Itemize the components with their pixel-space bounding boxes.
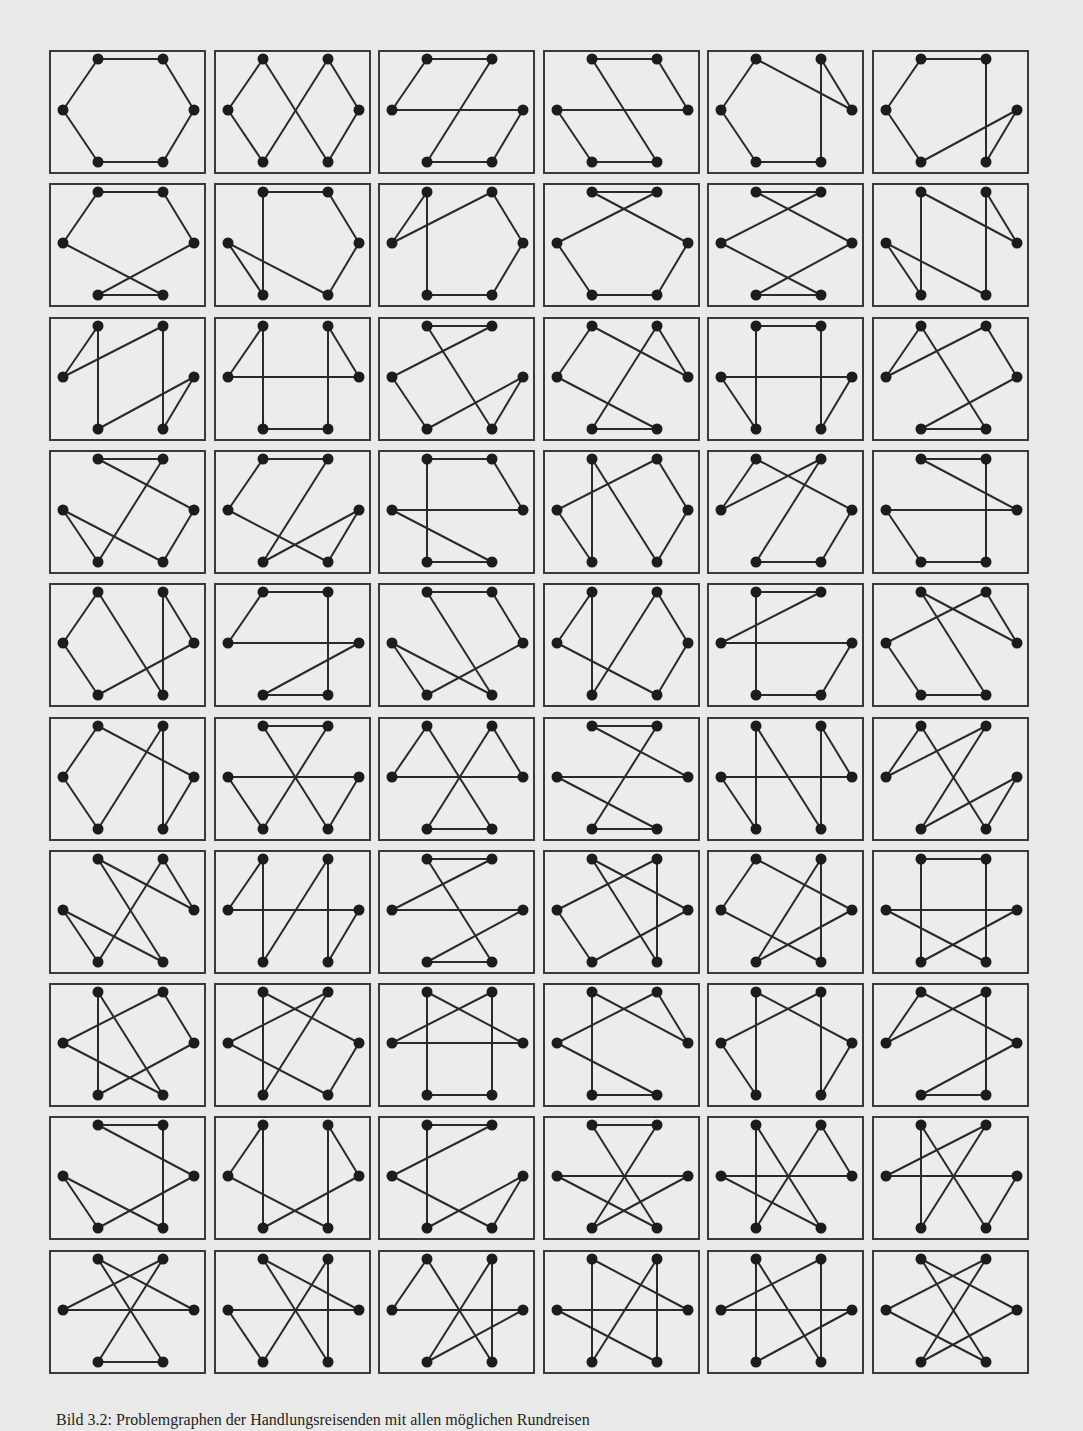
- city-node-bl: [751, 557, 762, 568]
- city-node-tr: [158, 587, 169, 598]
- city-node-tr: [487, 187, 498, 198]
- city-node-r: [189, 1305, 200, 1316]
- city-node-bl: [422, 157, 433, 168]
- tour-panel: [378, 450, 535, 574]
- city-node-bl: [587, 957, 598, 968]
- city-node-tl: [916, 54, 927, 65]
- tour-panel: [872, 1250, 1029, 1374]
- tour-graph: [49, 50, 206, 174]
- tour-panel: [543, 850, 700, 974]
- city-node-br: [981, 557, 992, 568]
- city-node-br: [158, 557, 169, 568]
- city-node-br: [323, 557, 334, 568]
- city-node-br: [816, 557, 827, 568]
- city-node-l: [881, 1305, 892, 1316]
- panel-frame: [544, 51, 699, 173]
- tour-panel: [707, 183, 864, 307]
- city-node-bl: [916, 957, 927, 968]
- tour-panel: [214, 50, 371, 174]
- city-node-br: [487, 424, 498, 435]
- city-node-r: [354, 905, 365, 916]
- city-node-l: [387, 105, 398, 116]
- city-node-bl: [258, 1223, 269, 1234]
- tour-graph: [543, 183, 700, 307]
- city-node-bl: [751, 690, 762, 701]
- city-node-r: [518, 238, 529, 249]
- city-node-r: [847, 1305, 858, 1316]
- tour-graph: [49, 1250, 206, 1374]
- city-node-r: [518, 505, 529, 516]
- city-node-tl: [422, 987, 433, 998]
- panel-frame: [708, 184, 863, 306]
- city-node-l: [881, 1171, 892, 1182]
- city-node-r: [847, 772, 858, 783]
- city-node-tr: [323, 321, 334, 332]
- tour-graph: [49, 583, 206, 707]
- panel-frame: [544, 718, 699, 840]
- city-node-l: [881, 772, 892, 783]
- city-node-l: [58, 372, 69, 383]
- city-node-r: [189, 105, 200, 116]
- tour-panel: [707, 1250, 864, 1374]
- city-node-bl: [587, 1090, 598, 1101]
- tour-graph: [378, 583, 535, 707]
- city-node-r: [847, 1171, 858, 1182]
- city-node-r: [683, 1305, 694, 1316]
- city-node-tl: [93, 54, 104, 65]
- city-node-l: [387, 772, 398, 783]
- city-node-tl: [93, 1254, 104, 1265]
- city-node-br: [816, 290, 827, 301]
- city-node-tr: [158, 454, 169, 465]
- city-node-br: [487, 690, 498, 701]
- tour-graph: [543, 50, 700, 174]
- city-node-tr: [981, 187, 992, 198]
- city-node-br: [652, 290, 663, 301]
- tour-panel: [378, 983, 535, 1107]
- city-node-bl: [93, 1357, 104, 1368]
- panel-frame: [544, 1117, 699, 1239]
- panel-frame: [708, 984, 863, 1106]
- city-node-l: [881, 505, 892, 516]
- city-node-l: [552, 638, 563, 649]
- tour-graph: [378, 50, 535, 174]
- panel-frame: [544, 984, 699, 1106]
- panel-frame: [708, 51, 863, 173]
- tour-graph: [872, 450, 1029, 574]
- city-node-tr: [816, 454, 827, 465]
- panel-frame: [544, 318, 699, 440]
- city-node-r: [847, 105, 858, 116]
- city-node-br: [487, 957, 498, 968]
- city-node-r: [189, 505, 200, 516]
- tour-graph: [707, 50, 864, 174]
- city-node-r: [189, 638, 200, 649]
- city-node-r: [847, 905, 858, 916]
- city-node-tl: [916, 187, 927, 198]
- city-node-r: [354, 105, 365, 116]
- city-node-l: [58, 772, 69, 783]
- city-node-tr: [652, 54, 663, 65]
- city-node-bl: [93, 1090, 104, 1101]
- city-node-tl: [587, 1120, 598, 1131]
- panel-frame: [873, 318, 1028, 440]
- city-node-br: [981, 1223, 992, 1234]
- panel-frame: [215, 984, 370, 1106]
- city-node-tl: [587, 187, 598, 198]
- city-node-bl: [93, 957, 104, 968]
- tour-panel: [214, 717, 371, 841]
- city-node-r: [683, 505, 694, 516]
- city-node-bl: [422, 424, 433, 435]
- tour-graph: [872, 583, 1029, 707]
- tour-panel: [378, 1250, 535, 1374]
- city-node-bl: [422, 957, 433, 968]
- tour-graph: [707, 717, 864, 841]
- city-node-l: [58, 238, 69, 249]
- city-node-tl: [422, 854, 433, 865]
- city-node-r: [354, 1171, 365, 1182]
- city-node-tr: [981, 721, 992, 732]
- city-node-l: [58, 1171, 69, 1182]
- tour-panel: [378, 317, 535, 441]
- tour-panel: [543, 450, 700, 574]
- city-node-br: [981, 957, 992, 968]
- city-node-tl: [422, 1120, 433, 1131]
- city-node-br: [323, 957, 334, 968]
